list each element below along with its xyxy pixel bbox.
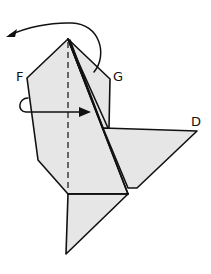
bottom-point [66, 194, 128, 254]
diagram-canvas [0, 0, 211, 274]
label-f: F [16, 70, 23, 83]
top-arrowhead-icon [6, 29, 17, 37]
label-g: G [113, 70, 123, 83]
origami-diagram: F G D [0, 0, 211, 274]
label-d: D [191, 115, 201, 128]
